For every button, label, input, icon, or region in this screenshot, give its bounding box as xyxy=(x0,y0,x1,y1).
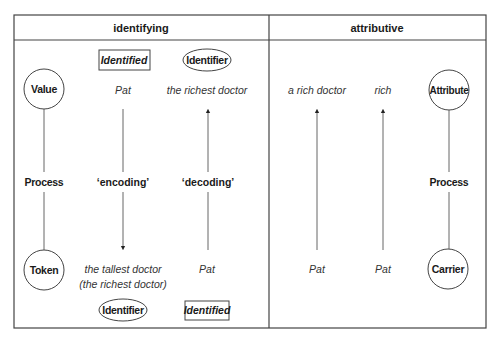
label-encoding: ‘encoding’ xyxy=(97,176,150,189)
tag-identified-bottom: Identified xyxy=(184,304,231,317)
text-a-rich-doctor: a rich doctor xyxy=(288,84,346,97)
text-pat-attr-1: Pat xyxy=(309,263,325,276)
header-identifying: identifying xyxy=(113,22,169,35)
text-richest-doctor-paren: (the richest doctor) xyxy=(79,278,167,291)
role-value: Value xyxy=(31,83,57,96)
text-pat-attr-2: Pat xyxy=(375,263,391,276)
label-decoding: ‘decoding’ xyxy=(182,176,235,189)
diagram-lines xyxy=(0,0,499,346)
header-attributive: attributive xyxy=(350,22,403,35)
text-tallest-doctor: the tallest doctor xyxy=(84,263,161,276)
tag-identified-top: Identified xyxy=(101,54,148,67)
tag-identifier-top: Identifier xyxy=(186,54,227,67)
role-token: Token xyxy=(30,264,59,277)
role-attribute: Attribute xyxy=(430,84,469,97)
role-process-left: Process xyxy=(25,176,64,189)
text-pat-top: Pat xyxy=(115,84,131,97)
role-process-right: Process xyxy=(430,176,469,189)
text-pat-bottom: Pat xyxy=(199,263,215,276)
tag-identifier-bottom: Identifier xyxy=(102,304,143,317)
text-rich: rich xyxy=(375,84,392,97)
role-carrier: Carrier xyxy=(432,263,464,276)
text-richest-doctor: the richest doctor xyxy=(167,84,248,97)
